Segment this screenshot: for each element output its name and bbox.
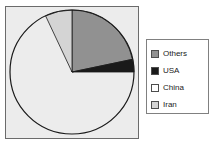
legend-swatch-iran bbox=[151, 101, 159, 109]
pie-slice-iran bbox=[46, 10, 72, 72]
legend-label-usa: USA bbox=[163, 66, 179, 75]
legend-list: Others USA China Iran bbox=[147, 40, 208, 113]
legend-item-usa[interactable]: USA bbox=[151, 62, 208, 79]
legend: Others USA China Iran bbox=[146, 39, 209, 114]
legend-label-china: China bbox=[163, 83, 184, 92]
legend-item-china[interactable]: China bbox=[151, 79, 208, 96]
legend-swatch-china bbox=[151, 84, 159, 92]
legend-item-others[interactable]: Others bbox=[151, 45, 208, 62]
legend-label-iran: Iran bbox=[163, 100, 177, 109]
pie-chart-figure: Others USA China Iran bbox=[0, 0, 217, 150]
legend-swatch-others bbox=[151, 50, 159, 58]
legend-item-iran[interactable]: Iran bbox=[151, 96, 208, 113]
legend-label-others: Others bbox=[163, 49, 187, 58]
legend-swatch-usa bbox=[151, 67, 159, 75]
